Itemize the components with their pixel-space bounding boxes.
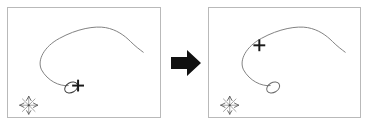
- right-arrow-shape: [171, 50, 201, 76]
- trajectory-curve-after: [242, 27, 345, 86]
- cross-marker-after: [253, 39, 265, 51]
- cross-marker-before: [72, 80, 84, 92]
- panel-after: [208, 7, 361, 118]
- right-arrow-icon: [168, 45, 204, 81]
- loop-marker-after: [265, 80, 282, 95]
- panel-after-canvas: [209, 8, 360, 117]
- compass-rose-icon-before: [20, 96, 38, 114]
- figure-root: [0, 0, 367, 127]
- trajectory-curve-before: [40, 27, 143, 86]
- compass-rose-icon-after: [221, 96, 239, 114]
- transition-arrow: [168, 45, 204, 81]
- loop-marker-before: [63, 80, 80, 95]
- panel-before: [7, 7, 161, 118]
- panel-before-canvas: [8, 8, 160, 117]
